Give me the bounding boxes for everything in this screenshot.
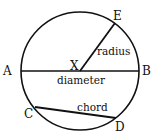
point-label-x: X — [70, 59, 79, 73]
point-label-e: E — [113, 9, 122, 23]
diameter-label: diameter — [57, 74, 106, 86]
circle-diagram: A B E X C D radius diameter chord — [0, 0, 157, 138]
chord-label: chord — [77, 101, 108, 113]
point-label-d: D — [115, 120, 125, 134]
point-label-b: B — [142, 64, 151, 78]
radius-label: radius — [97, 45, 131, 57]
point-label-a: A — [2, 64, 12, 78]
point-label-c: C — [24, 107, 33, 121]
